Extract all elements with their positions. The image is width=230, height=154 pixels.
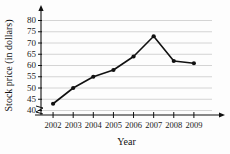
- data-point-2005: [111, 68, 115, 72]
- y-tick-label-70: 70: [27, 38, 37, 48]
- y-tick-label-65: 65: [27, 49, 37, 59]
- x-tick-label-2007: 2007: [145, 120, 162, 130]
- data-point-2006: [131, 54, 135, 58]
- data-point-2004: [91, 75, 95, 79]
- x-axis-arrow-icon: [219, 112, 225, 117]
- data-point-2009: [192, 61, 196, 65]
- y-axis-arrow-icon: [38, 5, 43, 11]
- x-tick-label-2008: 2008: [165, 120, 182, 130]
- x-tick-label-2009: 2009: [185, 120, 202, 130]
- y-tick-label-50: 50: [27, 83, 37, 93]
- x-tick-label-2002: 2002: [45, 120, 62, 130]
- y-axis-title: Stock price (in dollars): [3, 20, 15, 112]
- y-tick-label-80: 80: [27, 15, 37, 25]
- stock-price-line-chart: 4045505560657075802002200320042005200620…: [0, 0, 230, 154]
- x-tick-label-2004: 2004: [85, 120, 103, 130]
- data-point-2002: [51, 102, 55, 106]
- chart-canvas: 4045505560657075802002200320042005200620…: [0, 0, 230, 154]
- y-tick-label-75: 75: [27, 26, 37, 36]
- x-tick-label-2005: 2005: [105, 120, 122, 130]
- y-tick-label-60: 60: [27, 60, 37, 70]
- data-point-2008: [172, 59, 176, 63]
- x-tick-label-2003: 2003: [65, 120, 82, 130]
- x-axis-title: Year: [117, 136, 136, 147]
- y-tick-label-55: 55: [27, 71, 37, 81]
- y-tick-label-40: 40: [27, 105, 37, 115]
- x-tick-label-2006: 2006: [125, 120, 142, 130]
- data-point-2003: [71, 86, 75, 90]
- series-line-stock-price: [53, 36, 194, 104]
- y-tick-label-45: 45: [27, 94, 37, 104]
- data-point-2007: [152, 34, 156, 38]
